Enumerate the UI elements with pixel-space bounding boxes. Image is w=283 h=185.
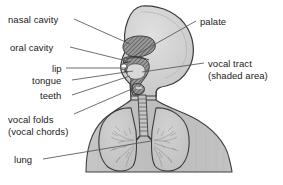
label-teeth-text: teeth: [40, 90, 61, 101]
label-lung: lung: [14, 154, 32, 166]
label-vocal-tract: vocal tract (shaded area): [208, 58, 268, 81]
label-vocal-folds: vocal folds (vocal chords): [8, 114, 68, 137]
label-vocal-folds-subtext: (vocal chords): [8, 126, 68, 138]
label-tongue-text: tongue: [32, 75, 61, 86]
label-lip-text: lip: [52, 63, 62, 74]
label-lip: lip: [52, 63, 62, 75]
label-teeth: teeth: [40, 90, 61, 102]
leader-oral-cavity: [70, 47, 131, 62]
label-palate: palate: [200, 16, 226, 28]
label-tongue: tongue: [32, 75, 61, 87]
label-nasal-cavity: nasal cavity: [8, 14, 58, 26]
lung-left: [99, 108, 137, 171]
label-vocal-folds-text: vocal folds: [8, 114, 53, 125]
leader-nasal-cavity: [74, 19, 130, 44]
label-palate-text: palate: [200, 16, 226, 27]
label-vocal-tract-text: vocal tract: [208, 58, 252, 69]
label-oral-cavity-text: oral cavity: [10, 42, 53, 53]
label-vocal-tract-subtext: (shaded area): [208, 70, 268, 82]
label-nasal-cavity-text: nasal cavity: [8, 14, 58, 25]
label-lung-text: lung: [14, 154, 32, 165]
label-oral-cavity: oral cavity: [10, 42, 53, 54]
